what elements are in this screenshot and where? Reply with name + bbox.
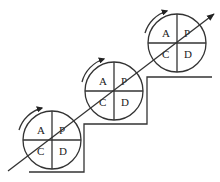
pdca-cycle-2: A P C D bbox=[82, 59, 143, 120]
quadrant-act: A bbox=[37, 124, 45, 136]
pdca-staircase-diagram: A P C D A P C D A P C D bbox=[0, 0, 220, 182]
quadrant-act: A bbox=[162, 27, 170, 39]
quadrant-act: A bbox=[99, 75, 107, 87]
quadrant-check: C bbox=[162, 48, 169, 60]
quadrant-check: C bbox=[99, 96, 106, 108]
quadrant-do: D bbox=[121, 96, 129, 108]
pdca-cycle-3: A P C D bbox=[145, 11, 206, 72]
progress-arrow bbox=[8, 14, 214, 171]
quadrant-do: D bbox=[59, 145, 67, 157]
quadrant-do: D bbox=[184, 48, 192, 60]
